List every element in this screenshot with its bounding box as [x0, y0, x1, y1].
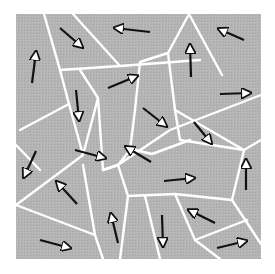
- arrow-icon: [162, 215, 163, 246]
- arrow-icon: [220, 93, 250, 94]
- diagram-frame: [16, 14, 261, 259]
- arrow-icon: [190, 45, 191, 77]
- grain-domain-diagram: [0, 0, 275, 274]
